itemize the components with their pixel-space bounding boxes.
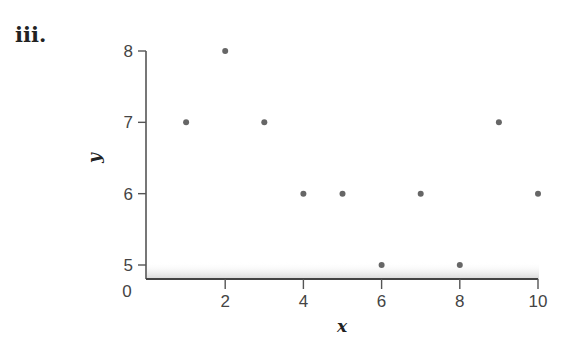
- data-point: [418, 191, 424, 197]
- origin-label: 0: [122, 282, 131, 301]
- y-tick-label: 8: [124, 42, 133, 61]
- data-point: [183, 119, 189, 125]
- x-tick-label: 6: [377, 292, 386, 311]
- x-tick-label: 2: [220, 292, 229, 311]
- data-point: [340, 191, 346, 197]
- y-axis-title: y: [84, 152, 104, 164]
- y-tick-label: 5: [124, 256, 133, 275]
- data-point: [300, 191, 306, 197]
- data-point: [496, 119, 502, 125]
- axes: [146, 51, 538, 279]
- data-point: [457, 262, 463, 268]
- x-axis-title: x: [336, 316, 348, 336]
- data-point: [379, 262, 385, 268]
- data-point: [222, 48, 228, 54]
- x-tick-label: 8: [455, 292, 464, 311]
- data-point: [535, 191, 541, 197]
- scatter-plot: 5678246810 0 x y: [0, 0, 566, 348]
- x-tick-label: 10: [529, 292, 548, 311]
- y-tick-label: 7: [124, 113, 133, 132]
- axis-shadow: [147, 262, 539, 279]
- x-tick-label: 4: [299, 292, 308, 311]
- data-points: [183, 48, 541, 268]
- data-point: [261, 119, 267, 125]
- y-tick-label: 6: [124, 185, 133, 204]
